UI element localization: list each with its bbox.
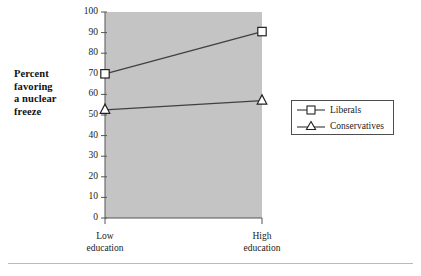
chart-legend: Liberals Conservatives: [291, 100, 394, 135]
data-point-marker: [101, 70, 109, 78]
legend-marker-open-triangle-icon: [296, 119, 326, 133]
footer-rule: [8, 263, 413, 264]
plot-background: [105, 12, 262, 218]
legend-label-liberals: Liberals: [326, 105, 361, 115]
legend-entry-conservatives[interactable]: Conservatives: [296, 118, 384, 134]
data-point-marker: [258, 27, 266, 35]
x-axis-tick-label-line: education: [70, 243, 140, 255]
legend-marker-open-square-icon: [296, 103, 326, 117]
legend-label-conservatives: Conservatives: [326, 121, 384, 131]
y-axis-tick-label: 100: [76, 7, 98, 17]
legend-entry-liberals[interactable]: Liberals: [296, 102, 361, 118]
y-axis-tick-label: 70: [76, 69, 98, 79]
y-axis-tick-label: 10: [76, 192, 98, 202]
x-axis-tick-label: Higheducation: [227, 231, 297, 254]
y-axis-tick-label: 20: [76, 172, 98, 182]
y-axis-tick-label: 90: [76, 28, 98, 38]
y-axis-tick-label: 50: [76, 110, 98, 120]
x-axis-ticks: [105, 218, 262, 224]
y-axis-tick-label: 60: [76, 89, 98, 99]
figure: Percent favoring a nuclear freeze 010203…: [0, 0, 421, 276]
x-axis-tick-label-line: education: [227, 243, 297, 255]
y-axis-tick-label: 40: [76, 131, 98, 141]
x-axis-tick-label: Loweducation: [70, 231, 140, 254]
x-axis-tick-label-line: High: [227, 231, 297, 243]
y-axis-tick-label: 80: [76, 48, 98, 58]
y-axis-tick-label: 30: [76, 151, 98, 161]
y-axis-tick-label: 0: [76, 213, 98, 223]
line-chart-svg: [0, 0, 421, 276]
plot-area: [0, 0, 421, 276]
x-axis-tick-label-line: Low: [70, 231, 140, 243]
